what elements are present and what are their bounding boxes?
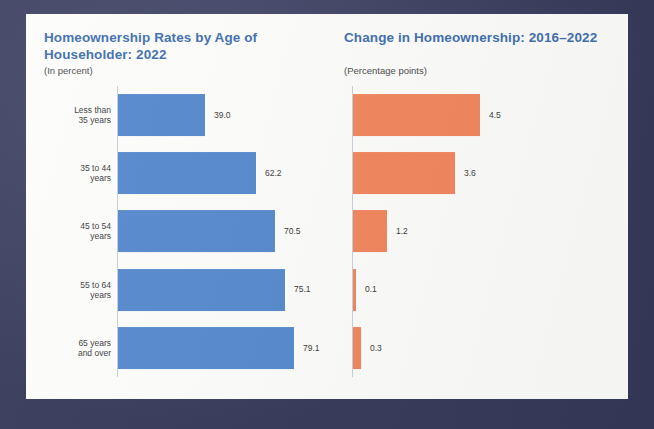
bar-homeownership-rate	[118, 211, 275, 253]
bar-homeownership-change	[353, 94, 480, 136]
bar-row: 65 years and over 79.1	[44, 319, 312, 377]
bar-group: 39.0	[118, 94, 312, 136]
left-plot-area: Less than 35 years 39.0 35 to 44 years 6…	[44, 86, 312, 377]
bar-homeownership-rate	[118, 152, 256, 194]
left-category-label: 55 to 64 years	[44, 280, 111, 300]
bar-group: 0.3	[353, 327, 614, 369]
left-chart-subtitle: (In percent)	[44, 65, 93, 76]
bar-group: 4.5	[353, 94, 614, 136]
bar-row: 45 to 54 years 70.5	[44, 202, 312, 260]
bar-row: 3.6	[340, 144, 614, 202]
chart-card: Homeownership Rates by Age of Householde…	[26, 14, 628, 399]
left-category-label: 35 to 44 years	[44, 163, 111, 183]
right-plot-area: 4.5 3.6 1.2	[340, 86, 614, 377]
bar-value-label: 39.0	[214, 111, 231, 120]
left-category-label: Less than 35 years	[44, 105, 111, 125]
bar-value-label: 75.1	[294, 285, 311, 294]
bar-row: 35 to 44 years 62.2	[44, 144, 312, 202]
bar-row: 1.2	[340, 202, 614, 260]
chart-panel-homeownership-rates: Homeownership Rates by Age of Householde…	[26, 14, 326, 399]
bar-row: Less than 35 years 39.0	[44, 86, 312, 144]
bar-group: 3.6	[353, 152, 614, 194]
bar-value-label: 0.3	[370, 344, 382, 353]
bar-group: 75.1	[118, 269, 312, 311]
bar-value-label: 62.2	[265, 169, 282, 178]
left-category-label: 45 to 54 years	[44, 221, 111, 241]
bar-homeownership-change	[353, 152, 455, 194]
bar-homeownership-rate	[118, 327, 294, 369]
bar-homeownership-rate	[118, 269, 285, 311]
page-frame: Homeownership Rates by Age of Householde…	[0, 0, 654, 429]
bar-group: 79.1	[118, 327, 312, 369]
bar-row: 0.3	[340, 319, 614, 377]
left-chart-title: Homeownership Rates by Age of Householde…	[44, 30, 309, 63]
bar-value-label: 79.1	[303, 344, 320, 353]
bar-homeownership-change	[353, 269, 356, 311]
bar-row: 55 to 64 years 75.1	[44, 261, 312, 319]
bar-group: 1.2	[353, 211, 614, 253]
bar-homeownership-change	[353, 327, 361, 369]
chart-panel-homeownership-change: Change in Homeownership: 2016–2022 (Perc…	[326, 14, 628, 399]
bar-value-label: 70.5	[284, 227, 301, 236]
bar-value-label: 4.5	[489, 111, 501, 120]
right-chart-title: Change in Homeownership: 2016–2022	[344, 30, 609, 47]
right-chart-subtitle: (Percentage points)	[344, 65, 427, 76]
bar-value-label: 3.6	[464, 169, 476, 178]
bar-row: 4.5	[340, 86, 614, 144]
bar-homeownership-rate	[118, 94, 205, 136]
bar-homeownership-change	[353, 211, 387, 253]
bar-group: 62.2	[118, 152, 312, 194]
bar-value-label: 0.1	[365, 285, 377, 294]
bar-group: 70.5	[118, 211, 312, 253]
bar-row: 0.1	[340, 261, 614, 319]
bar-group: 0.1	[353, 269, 614, 311]
bar-value-label: 1.2	[396, 227, 408, 236]
left-category-label: 65 years and over	[44, 338, 111, 358]
